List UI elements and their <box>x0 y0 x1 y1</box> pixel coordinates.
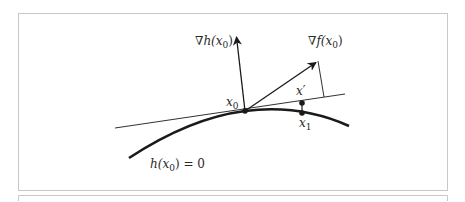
next-frame-top <box>19 196 448 202</box>
constraint-curve <box>129 109 349 158</box>
label-x-prime: x′ <box>296 84 306 98</box>
projection-line <box>318 61 324 97</box>
label-x1: x1 <box>299 116 312 132</box>
label-grad-h: ∇h(x0) <box>195 34 233 50</box>
label-grad-f: ∇f(x0) <box>308 34 343 50</box>
point-x-prime <box>299 100 305 106</box>
point-x1 <box>299 110 305 116</box>
label-constraint: h(x0) = 0 <box>150 157 205 173</box>
point-x0 <box>242 108 248 114</box>
grad-h-arrow <box>237 37 246 111</box>
label-x0: x0 <box>226 95 239 111</box>
constraint-gradient-diagram: ∇h(x0) ∇f(x0) x0 x′ x1 h(x0) = 0 <box>0 0 465 201</box>
